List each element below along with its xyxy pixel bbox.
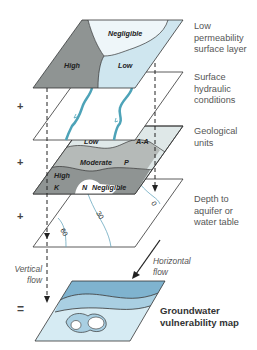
geo-label-p: P: [124, 158, 129, 167]
horizontal-flow-arrowhead: [132, 271, 140, 279]
equals-operator: =: [17, 302, 24, 316]
geo-label-negligible: Negligible: [92, 183, 126, 192]
result-label: Groundwater vulnerability map: [160, 305, 239, 329]
surface-label-negligible: Negligible: [108, 29, 142, 38]
layer-label-surface: Low permeability surface layer: [194, 21, 247, 56]
surface-label-high: High: [64, 61, 81, 70]
plus-operator-2: +: [17, 156, 23, 168]
plus-operator-1: +: [17, 100, 23, 112]
geo-label-high: High: [54, 171, 71, 180]
layer-label-geological: Geological units: [194, 126, 237, 149]
geo-label-aa: A-A: [135, 137, 149, 146]
horizontal-flow-label: Horizontal flow: [153, 256, 191, 277]
vertical-flow-label: Vertical flow: [11, 264, 42, 285]
layer-label-depth: Depth to aquifer or water table: [194, 194, 239, 229]
geo-label-k: K: [54, 183, 60, 192]
geo-label-moderate: Moderate: [80, 158, 112, 167]
surface-label-low: Low: [118, 61, 133, 70]
layer-label-hydraulic: Surface hydraulic conditions: [194, 72, 235, 107]
plus-operator-3: +: [17, 210, 23, 222]
vertical-flow-arrow-left-bottom: [44, 296, 50, 303]
vulnerability-map: [35, 281, 165, 341]
geo-label-n: N: [82, 183, 88, 192]
